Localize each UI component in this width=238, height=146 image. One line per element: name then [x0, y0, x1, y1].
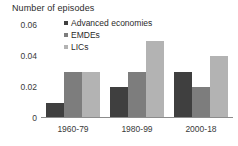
bar-group-2000-18: [169, 25, 233, 118]
legend-item-lics: LICs: [64, 42, 152, 52]
legend-swatch-icon-emdes: [64, 33, 68, 37]
y-axis-tick-0: 0: [32, 114, 37, 123]
legend-label-lics: LICs: [71, 42, 88, 52]
bar-emdes-2000-18: [192, 87, 210, 118]
chart-title: Number of episodes: [12, 3, 94, 14]
legend-swatch-icon-lics: [64, 45, 68, 49]
x-axis-labels: 1960-79 1980-99 2000-18: [41, 124, 233, 134]
bar-emdes-1960-79: [64, 72, 82, 119]
bar-advanced-economies-1960-79: [46, 103, 64, 119]
bar-advanced-economies-1980-99: [110, 87, 128, 118]
legend-item-advanced-economies: Advanced economies: [64, 18, 152, 28]
x-axis-label-0: 1960-79: [41, 124, 105, 134]
chart-legend: Advanced economies EMDEs LICs: [64, 18, 152, 52]
bar-chart: Number of episodes 0 0.02 0.04 0.06: [0, 0, 238, 146]
bar-lics-1960-79: [82, 72, 100, 119]
bar-lics-2000-18: [210, 56, 228, 118]
legend-label-advanced-economies: Advanced economies: [71, 18, 152, 28]
bar-lics-1980-99: [146, 41, 164, 118]
y-axis-tick-2: 0.04: [20, 51, 37, 60]
y-axis-tick-1: 0.02: [20, 83, 37, 92]
x-axis-label-1: 1980-99: [105, 124, 169, 134]
x-axis-label-2: 2000-18: [169, 124, 233, 134]
legend-item-emdes: EMDEs: [64, 30, 152, 40]
legend-swatch-icon-advanced-economies: [64, 21, 68, 25]
x-axis-line: [41, 117, 233, 118]
bar-emdes-1980-99: [128, 72, 146, 119]
y-axis-tick-3: 0.06: [20, 21, 37, 30]
bar-advanced-economies-2000-18: [174, 72, 192, 119]
legend-label-emdes: EMDEs: [71, 30, 100, 40]
